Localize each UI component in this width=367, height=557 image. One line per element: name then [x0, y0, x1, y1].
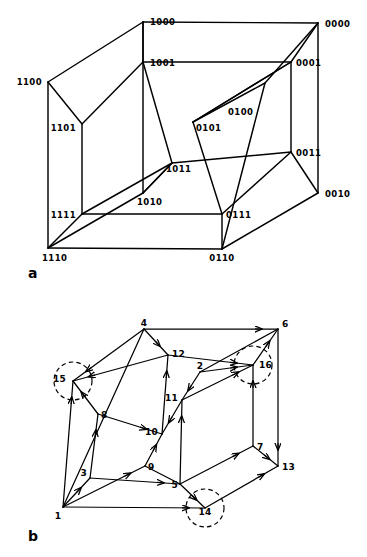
- vertex-label-1010: 1010: [137, 197, 162, 207]
- vertex-label-0011: 0011: [296, 148, 321, 158]
- node-label-1: 1: [55, 511, 61, 521]
- edge-arrowhead-7-13: [264, 455, 269, 459]
- edge-arrowhead-5-7: [233, 453, 239, 456]
- node-label-7: 7: [257, 442, 263, 452]
- vertex-label-1000: 1000: [150, 17, 175, 27]
- vertex-label-0111: 0111: [226, 210, 251, 220]
- vertex-label-0100: 0100: [228, 107, 253, 117]
- panel-a-letter: a: [28, 266, 37, 280]
- figure-page: 1000000011000100111001100010101010010001…: [0, 0, 367, 557]
- tesseract-edge: [48, 22, 143, 82]
- node-label-15: 15: [53, 374, 66, 384]
- edge-arrowhead-11-10: [169, 417, 173, 423]
- node-label-16: 16: [259, 360, 272, 370]
- edge-arrowhead-1-3: [76, 488, 81, 493]
- vertex-label-0110: 0110: [209, 253, 234, 263]
- vertex-label-1110: 1110: [42, 253, 67, 263]
- edge-arrowhead-1-9: [124, 473, 130, 476]
- graph-edge-4-15: [73, 329, 144, 381]
- tesseract-edges: [48, 22, 318, 249]
- graph-edge-5-11: [180, 400, 182, 484]
- node-label-5: 5: [172, 480, 178, 490]
- vertex-label-1011: 1011: [166, 164, 191, 174]
- graph-edge-3-5: [90, 478, 180, 484]
- tesseract-edge: [222, 152, 291, 214]
- graph-edge-13-14: [205, 466, 278, 508]
- node-label-10: 10: [145, 427, 158, 437]
- tesseract-edge: [48, 248, 222, 249]
- vertex-label-1111: 1111: [51, 210, 76, 220]
- graph-edge-15-8: [73, 381, 98, 414]
- cube-graph-diagram: 12345678910111213141516: [0, 290, 367, 557]
- tesseract-edge: [48, 82, 82, 124]
- panel-a-tesseract: 1000000011000100111001100010101010010001…: [0, 0, 367, 290]
- edge-arrowhead-4-12: [155, 341, 160, 346]
- vertex-label-1100: 1100: [17, 77, 42, 87]
- node-label-12: 12: [172, 349, 185, 359]
- edge-arrowhead-5-14: [192, 495, 197, 500]
- node-label-9: 9: [148, 462, 154, 472]
- panel-b-cube-graph: 12345678910111213141516: [0, 290, 367, 557]
- cube-graph-highlight-circles: [54, 346, 272, 527]
- node-label-11: 11: [165, 393, 178, 403]
- tesseract-diagram: 1000000011000100111001100010101010010001…: [0, 0, 367, 290]
- cube-graph-node-labels: 12345678910111213141516: [53, 318, 295, 521]
- node-label-3: 3: [81, 468, 87, 478]
- vertex-label-1001: 1001: [150, 58, 175, 68]
- edge-arrowhead-2-11: [188, 385, 192, 391]
- tesseract-edge: [291, 23, 318, 62]
- vertex-label-0000: 0000: [325, 19, 350, 29]
- node-label-13: 13: [282, 462, 295, 472]
- tesseract-vertex-labels: 1000000011000100111001100010101010010001…: [17, 17, 351, 263]
- node-label-4: 4: [141, 318, 147, 328]
- tesseract-edge: [172, 152, 291, 163]
- vertex-label-1101: 1101: [51, 123, 76, 133]
- node-label-8: 8: [101, 410, 107, 420]
- tesseract-edge: [291, 152, 318, 193]
- edge-arrowhead-10-12: [166, 371, 167, 378]
- node-label-2: 2: [197, 361, 203, 371]
- node-label-6: 6: [282, 319, 288, 329]
- edge-arrowhead-9-10: [153, 445, 156, 451]
- cube-graph-edges: [63, 329, 278, 508]
- vertex-label-0001: 0001: [296, 58, 321, 68]
- panel-b-letter: b: [28, 529, 38, 543]
- graph-edge-1-9: [63, 466, 145, 507]
- graph-edge-5-7: [180, 446, 253, 484]
- tesseract-edge: [82, 62, 143, 124]
- tesseract-edge: [193, 122, 222, 214]
- tesseract-edge: [143, 62, 172, 163]
- graph-edge-15-12: [73, 355, 168, 381]
- tesseract-edge: [48, 193, 143, 248]
- vertex-label-0101: 0101: [196, 123, 221, 133]
- vertex-label-0010: 0010: [325, 189, 350, 199]
- edge-arrowhead-14-13: [258, 474, 264, 477]
- node-label-14: 14: [199, 507, 212, 517]
- caption-strip: [0, 548, 367, 557]
- edge-arrowhead-16-6: [266, 341, 270, 347]
